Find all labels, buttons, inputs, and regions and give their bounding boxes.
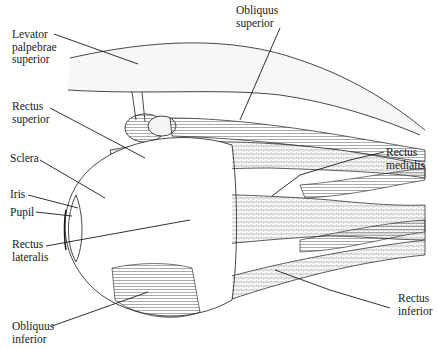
label-line: inferior: [398, 305, 432, 318]
label-line: Rectus: [386, 146, 425, 159]
label-line: Rectus: [12, 238, 48, 251]
trochlea: [125, 92, 176, 142]
label-line: Rectus: [12, 100, 50, 113]
label-line: Pupil: [10, 206, 34, 219]
label-line: medialis: [386, 159, 425, 172]
label-sclera: Sclera: [10, 152, 39, 165]
label-line: Rectus: [398, 292, 432, 305]
label-pupil: Pupil: [10, 206, 34, 219]
label-iris: Iris: [10, 188, 25, 201]
label-line: Levator: [12, 28, 57, 41]
label-rectus-medialis: Rectus medialis: [386, 146, 425, 171]
label-line: lateralis: [12, 251, 48, 264]
label-line: superior: [236, 17, 278, 30]
label-obliquus-superior: Obliquus superior: [236, 4, 278, 29]
label-line: Obliquus: [12, 320, 54, 333]
obliquus-inferior-muscle: [112, 264, 200, 318]
label-line: inferior: [12, 333, 54, 346]
label-levator-palpebrae-superior: Levator palpebrae superior: [12, 28, 57, 66]
eye-muscle-illustration: [0, 0, 438, 349]
label-line: Sclera: [10, 152, 39, 165]
label-line: Obliquus: [236, 4, 278, 17]
label-line: palpebrae: [12, 41, 57, 54]
label-line: Iris: [10, 188, 25, 201]
levator-palpebrae-muscle: [68, 43, 425, 135]
label-rectus-lateralis: Rectus lateralis: [12, 238, 48, 263]
label-rectus-superior: Rectus superior: [12, 100, 50, 125]
label-line: superior: [12, 53, 57, 66]
label-rectus-inferior: Rectus inferior: [398, 292, 432, 317]
label-obliquus-inferior: Obliquus inferior: [12, 320, 54, 345]
label-line: superior: [12, 113, 50, 126]
